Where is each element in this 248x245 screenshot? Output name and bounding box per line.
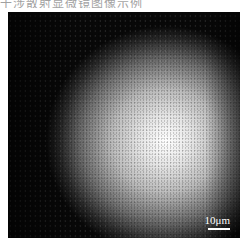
figure-caption-cropped: 干涉散射显微镜图像示例 [0, 0, 248, 8]
scale-bar-label: 10μm [205, 214, 230, 226]
edge-vignette [8, 12, 240, 238]
microscopy-image: 10μm [8, 12, 240, 238]
scale-bar [208, 228, 230, 230]
